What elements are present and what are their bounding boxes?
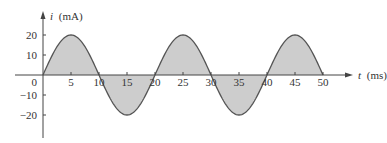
sine-current-chart: 510152025303540455020100−10−20 i (mA) t … — [0, 0, 387, 143]
y-tick-label: −10 — [20, 89, 38, 101]
x-tick-label: 15 — [122, 76, 134, 88]
x-tick-label: 25 — [178, 76, 190, 88]
y-axis-unit: (mA) — [59, 10, 83, 23]
x-tick-label: 10 — [94, 76, 106, 88]
y-tick-label: 0 — [32, 76, 38, 88]
x-axis-label: t (ms) — [358, 69, 387, 82]
y-axis-label: i (mA) — [50, 10, 83, 23]
x-tick-label: 5 — [68, 76, 74, 88]
y-axis-arrow-icon — [41, 11, 46, 19]
x-axis-arrow-icon — [345, 73, 353, 78]
y-tick-label: −20 — [20, 109, 38, 121]
x-axis-variable: t — [358, 69, 362, 81]
y-tick-label: 20 — [26, 29, 38, 41]
x-tick-label: 40 — [262, 76, 274, 88]
y-tick-label: 10 — [26, 49, 38, 61]
x-tick-label: 20 — [150, 76, 162, 88]
y-axis-variable: i — [50, 10, 53, 22]
axes — [15, 11, 353, 138]
x-tick-label: 50 — [318, 76, 330, 88]
x-axis-unit: (ms) — [367, 69, 387, 82]
x-tick-label: 45 — [290, 76, 302, 88]
x-tick-label: 30 — [206, 76, 218, 88]
x-tick-label: 35 — [234, 76, 246, 88]
